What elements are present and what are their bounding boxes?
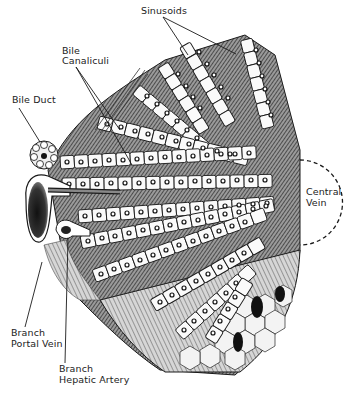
label-branch-hepatic-artery-line2: Hepatic Artery <box>59 375 129 385</box>
label-central-vein-line2: Vein <box>306 198 327 208</box>
label-bile-canaliculi-line2: Canaliculi <box>62 56 109 66</box>
label-bile-duct: Bile Duct <box>12 95 56 105</box>
label-branch-portal-vein-line2: Portal Vein <box>11 339 63 349</box>
label-sinusoids: Sinusoids <box>141 6 187 16</box>
label-branch-portal-vein-line1: Branch <box>11 328 45 338</box>
label-central-vein-line1: Central <box>306 187 341 197</box>
lobule-illustration <box>0 0 353 394</box>
liver-lobule-diagram: Sinusoids Bile Canaliculi Bile Duct Cent… <box>0 0 353 394</box>
bile-duct <box>30 141 58 169</box>
label-branch-hepatic-artery-line1: Branch <box>59 364 93 374</box>
